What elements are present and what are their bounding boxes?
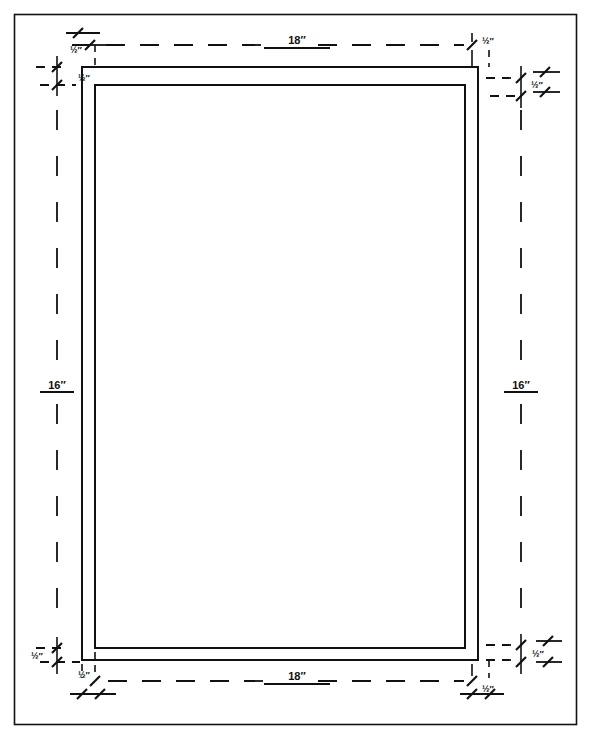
dimension-drawing: 18″ ½″ ½″ ½″ <box>0 0 591 739</box>
bottom-right-margin-label: ½″ <box>482 684 495 694</box>
right-height-label: 16″ <box>512 379 530 391</box>
bottom-left-horizontal-margin-label: ½″ <box>78 670 91 680</box>
top-left-inner-margin-label: ½″ <box>78 73 91 83</box>
top-right-margin-label: ½″ <box>482 36 495 46</box>
bottom-right-horizontal-margin-group: ½″ <box>486 634 562 674</box>
figure-canvas: 18″ ½″ ½″ ½″ <box>0 0 591 739</box>
top-width-label: 18″ <box>288 34 306 46</box>
outer-border <box>15 15 577 725</box>
top-dimension-group: 18″ ½″ ½″ <box>66 28 495 67</box>
top-left-outer-margin-label: ½″ <box>70 45 83 55</box>
bottom-left-vertical-margin-label: ½″ <box>31 651 44 661</box>
mat-inner-rect <box>95 85 465 648</box>
right-top-margin-label: ½″ <box>531 80 544 90</box>
top-right-horizontal-margin-group: ½″ <box>486 66 560 108</box>
right-dimension-group: 16″ <box>504 110 538 632</box>
right-bottom-margin-label: ½″ <box>532 649 545 659</box>
bottom-width-label: 18″ <box>288 670 306 682</box>
left-height-label: 16″ <box>48 379 66 391</box>
left-dimension-group: 16″ <box>40 110 74 632</box>
mat-outer-rect <box>82 67 478 660</box>
bottom-left-vertical-margin-group: ½″ <box>31 637 80 674</box>
